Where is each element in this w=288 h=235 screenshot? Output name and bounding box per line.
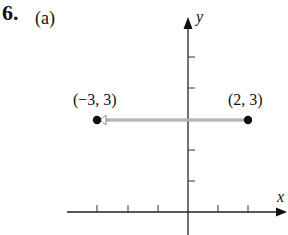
x-axis-label: x bbox=[277, 189, 284, 205]
coordinate-plane bbox=[0, 0, 288, 235]
translation-arrow bbox=[100, 115, 248, 125]
y-axis bbox=[184, 17, 196, 235]
x-axis-arrow-icon bbox=[276, 208, 287, 217]
y-axis-label: y bbox=[196, 9, 203, 25]
point-neg3-3 bbox=[93, 116, 101, 124]
point-label-2-3: (2, 3) bbox=[228, 92, 263, 108]
y-axis-arrow-icon bbox=[184, 17, 193, 29]
x-axis bbox=[67, 205, 287, 217]
point-2-3 bbox=[244, 116, 252, 124]
point-label-neg3-3: (−3, 3) bbox=[73, 92, 117, 108]
